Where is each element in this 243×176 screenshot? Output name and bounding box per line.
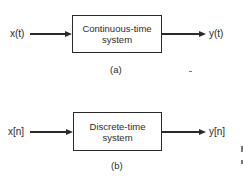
output-arrow-line-b (162, 131, 200, 133)
output-arrow-line-a (162, 33, 200, 35)
system-label-line2-b: system (102, 132, 132, 143)
input-arrowhead-b (66, 129, 73, 135)
output-arrowhead-a (199, 31, 206, 37)
input-label-a: x(t) (10, 29, 24, 39)
input-arrowhead-a (65, 31, 72, 37)
system-label-line1-b: Discrete-time (90, 121, 146, 132)
system-box-discrete: Discrete-time system (73, 112, 162, 151)
input-arrow-line-b (30, 131, 67, 133)
edge-mark-2 (241, 160, 243, 164)
system-label-line2-a: system (102, 34, 132, 45)
output-arrowhead-b (199, 129, 206, 135)
output-label-a: y(t) (209, 29, 223, 39)
input-label-b: x[n] (8, 127, 24, 137)
system-box-continuous: Continuous-time system (72, 15, 162, 53)
caption-a: (a) (110, 65, 122, 75)
stray-mark (189, 71, 192, 72)
output-label-b: y[n] (209, 127, 225, 137)
input-arrow-line-a (30, 33, 66, 35)
caption-b: (b) (111, 161, 123, 171)
system-label-line1-a: Continuous-time (82, 23, 151, 34)
edge-mark-1 (241, 146, 243, 152)
